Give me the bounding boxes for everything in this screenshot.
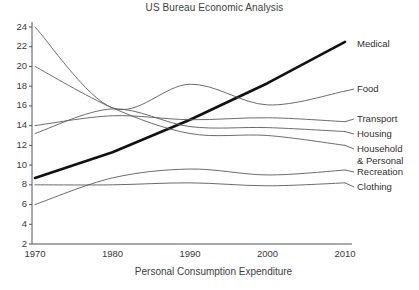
- chart-plot-area: 24681012141618202224 1970198019902000201…: [0, 0, 419, 290]
- y-tick-label: 12: [16, 139, 27, 150]
- series-line-recreation: [35, 169, 345, 205]
- label-leader-line: [345, 183, 354, 187]
- series-label-household-personal: Household: [357, 143, 402, 154]
- label-leader-line: [345, 119, 354, 122]
- x-axis-title: Personal Consumption Expenditure: [0, 266, 419, 277]
- series-label-transport: Transport: [357, 113, 398, 124]
- y-tick-label: 24: [16, 21, 27, 32]
- series-line-housing: [35, 109, 345, 134]
- series-line-household-personal: [35, 66, 345, 145]
- series-line-food: [35, 27, 345, 110]
- x-tick-label: 1990: [179, 248, 200, 259]
- x-tick-label: 2000: [257, 248, 278, 259]
- series-label-medical: Medical: [357, 38, 390, 49]
- y-tick-label: 8: [22, 178, 27, 189]
- y-tick-label: 22: [16, 40, 27, 51]
- x-tick-label: 2010: [334, 248, 355, 259]
- label-leader-line: [345, 170, 354, 172]
- series-lines: [35, 27, 345, 205]
- series-label-household-personal-line2: & Personal: [357, 155, 403, 166]
- y-tick-label: 4: [22, 218, 27, 229]
- series-line-medical: [35, 42, 345, 178]
- label-leader-line: [345, 145, 354, 149]
- y-tick-label: 2: [22, 238, 27, 249]
- series-label-recreation: Recreation: [357, 166, 403, 177]
- y-tick-label: 14: [16, 119, 27, 130]
- x-axis-ticks: 19701980199020002010: [24, 248, 355, 259]
- series-labels: MedicalFoodTransportHousingHousehold& Pe…: [345, 38, 403, 192]
- y-tick-label: 20: [16, 60, 27, 71]
- y-tick-label: 18: [16, 80, 27, 91]
- y-tick-label: 6: [22, 198, 27, 209]
- series-label-food: Food: [357, 83, 379, 94]
- series-label-housing: Housing: [357, 128, 392, 139]
- label-leader-line: [345, 132, 354, 134]
- label-leader-line: [345, 89, 354, 91]
- series-label-clothing: Clothing: [357, 181, 392, 192]
- y-axis-ticks: 24681012141618202224: [16, 21, 32, 249]
- series-line-clothing: [35, 183, 345, 186]
- x-tick-label: 1970: [24, 248, 45, 259]
- y-tick-label: 10: [16, 159, 27, 170]
- x-tick-label: 1980: [102, 248, 123, 259]
- chart-container: US Bureau Economic Analysis 246810121416…: [0, 0, 419, 290]
- y-tick-label: 16: [16, 99, 27, 110]
